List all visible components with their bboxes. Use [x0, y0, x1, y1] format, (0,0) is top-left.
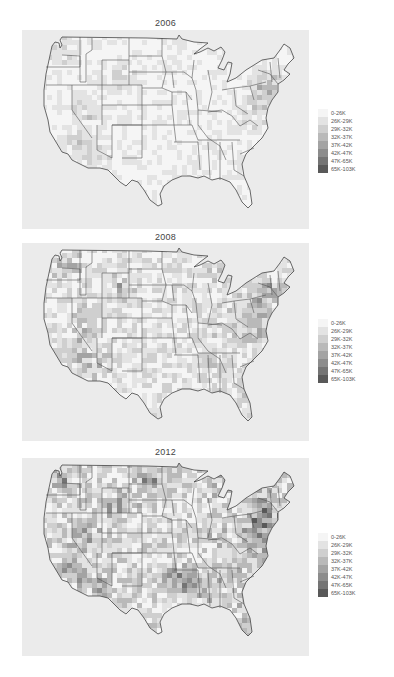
legend-swatch: [318, 573, 328, 581]
legend-item: 37K-42K: [318, 351, 355, 359]
legend-label: 47K-65K: [331, 582, 352, 588]
plot-area: [22, 458, 309, 656]
legend-label: 0-26K: [331, 110, 346, 116]
legend-item: 29K-32K: [318, 125, 355, 133]
legend-label: 32K-37K: [331, 344, 352, 350]
legend-item: 47K-65K: [318, 581, 355, 589]
legend-swatch: [318, 125, 328, 133]
legend-swatch: [318, 581, 328, 589]
legend-label: 32K-37K: [331, 134, 352, 140]
legend-swatch: [318, 557, 328, 565]
us-map: [22, 458, 309, 657]
legend-item: 26K-29K: [318, 327, 355, 335]
legend-item: 29K-32K: [318, 549, 355, 557]
legend-item: 42K-47K: [318, 573, 355, 581]
legend-label: 65K-103K: [331, 166, 355, 172]
county-fill: [22, 458, 309, 657]
legend-swatch: [318, 133, 328, 141]
legend-item: 47K-65K: [318, 157, 355, 165]
legend-item: 32K-37K: [318, 557, 355, 565]
legend-label: 47K-65K: [331, 368, 352, 374]
plot-area: [22, 243, 309, 441]
legend-label: 26K-29K: [331, 542, 352, 548]
legend-swatch: [318, 335, 328, 343]
county-fill: [22, 243, 309, 442]
legend: 0-26K26K-29K29K-32K32K-37K37K-42K42K-47K…: [318, 533, 355, 597]
legend-item: 42K-47K: [318, 359, 355, 367]
legend-swatch: [318, 375, 328, 383]
legend-item: 26K-29K: [318, 541, 355, 549]
legend-item: 0-26K: [318, 319, 355, 327]
legend-swatch: [318, 343, 328, 351]
legend-label: 0-26K: [331, 534, 346, 540]
legend-swatch: [318, 141, 328, 149]
legend-label: 37K-42K: [331, 352, 352, 358]
legend-swatch: [318, 109, 328, 117]
legend-item: 37K-42K: [318, 141, 355, 149]
legend-label: 32K-37K: [331, 558, 352, 564]
legend-swatch: [318, 359, 328, 367]
legend-label: 26K-29K: [331, 118, 352, 124]
legend-swatch: [318, 117, 328, 125]
legend-swatch: [318, 589, 328, 597]
legend-swatch: [318, 549, 328, 557]
legend-item: 29K-32K: [318, 335, 355, 343]
legend-swatch: [318, 149, 328, 157]
legend-swatch: [318, 565, 328, 573]
legend-item: 32K-37K: [318, 133, 355, 141]
legend-label: 37K-42K: [331, 566, 352, 572]
panel-title: 2012: [22, 447, 309, 457]
legend-item: 0-26K: [318, 109, 355, 117]
legend: 0-26K26K-29K29K-32K32K-37K37K-42K42K-47K…: [318, 319, 355, 383]
us-map: [22, 30, 309, 229]
legend-label: 0-26K: [331, 320, 346, 326]
county-fill: [22, 30, 309, 229]
legend-item: 47K-65K: [318, 367, 355, 375]
panel-title: 2006: [22, 18, 309, 28]
legend-label: 65K-103K: [331, 376, 355, 382]
legend-label: 47K-65K: [331, 158, 352, 164]
legend-label: 26K-29K: [331, 328, 352, 334]
legend-item: 65K-103K: [318, 375, 355, 383]
legend-label: 65K-103K: [331, 590, 355, 596]
legend-swatch: [318, 165, 328, 173]
legend-item: 65K-103K: [318, 589, 355, 597]
legend-swatch: [318, 533, 328, 541]
legend-swatch: [318, 327, 328, 335]
legend-item: 65K-103K: [318, 165, 355, 173]
legend-swatch: [318, 319, 328, 327]
panel-title: 2008: [22, 232, 309, 242]
legend-item: 0-26K: [318, 533, 355, 541]
legend-label: 29K-32K: [331, 550, 352, 556]
legend-label: 42K-47K: [331, 150, 352, 156]
legend-label: 29K-32K: [331, 126, 352, 132]
us-map: [22, 243, 309, 442]
legend-label: 42K-47K: [331, 360, 352, 366]
legend-item: 42K-47K: [318, 149, 355, 157]
legend-swatch: [318, 367, 328, 375]
legend: 0-26K26K-29K29K-32K32K-37K37K-42K42K-47K…: [318, 109, 355, 173]
legend-swatch: [318, 157, 328, 165]
legend-item: 37K-42K: [318, 565, 355, 573]
legend-item: 26K-29K: [318, 117, 355, 125]
plot-area: [22, 30, 309, 229]
legend-label: 37K-42K: [331, 142, 352, 148]
legend-swatch: [318, 351, 328, 359]
legend-label: 42K-47K: [331, 574, 352, 580]
legend-swatch: [318, 541, 328, 549]
legend-label: 29K-32K: [331, 336, 352, 342]
legend-item: 32K-37K: [318, 343, 355, 351]
